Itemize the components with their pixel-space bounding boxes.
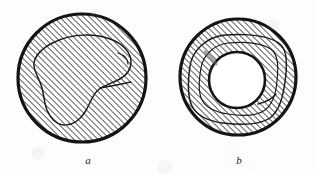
figure-a: [14, 10, 152, 148]
figure-plate-svg: [0, 0, 317, 174]
figure-plate: a b: [0, 0, 317, 174]
figure-a-caption: a: [78, 155, 98, 166]
figure-b-inner-hole: [209, 52, 265, 108]
figure-b: [178, 17, 298, 137]
figure-b-caption: b: [229, 155, 249, 166]
figure-a-hatch-fill: [14, 10, 152, 148]
